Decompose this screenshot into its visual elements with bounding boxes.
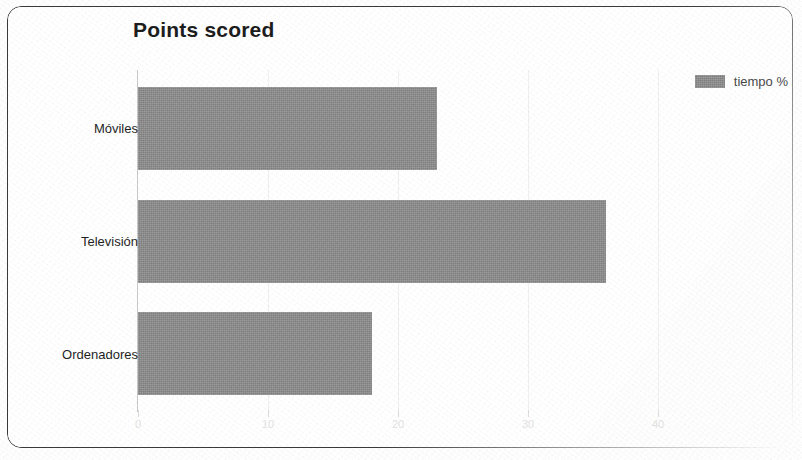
x-axis-tick <box>658 410 659 417</box>
x-axis-tick-label: 10 <box>262 418 274 430</box>
x-axis-tick <box>138 410 139 417</box>
category-label: Ordenadores <box>62 346 138 361</box>
category-label: Televisión <box>81 234 138 249</box>
chart-title: Points scored <box>133 18 274 42</box>
category-label: Móviles <box>94 121 138 136</box>
bar-televisión <box>138 200 606 283</box>
x-axis-tick <box>528 410 529 417</box>
x-axis-tick-label: 30 <box>522 418 534 430</box>
gridline <box>658 70 659 410</box>
legend-swatch-tiempo <box>695 75 725 88</box>
x-axis-tick-label: 40 <box>652 418 664 430</box>
bar-móviles <box>138 87 437 170</box>
chart-page: Points scored tiempo % 010203040 Móviles… <box>0 0 802 460</box>
x-axis-tick <box>268 410 269 417</box>
x-axis-tick <box>398 410 399 417</box>
x-axis-tick-label: 20 <box>392 418 404 430</box>
bar-ordenadores <box>138 312 372 395</box>
chart-legend: tiempo % <box>695 74 788 89</box>
x-axis-tick-label: 0 <box>135 418 141 430</box>
legend-label-tiempo: tiempo % <box>734 74 788 89</box>
